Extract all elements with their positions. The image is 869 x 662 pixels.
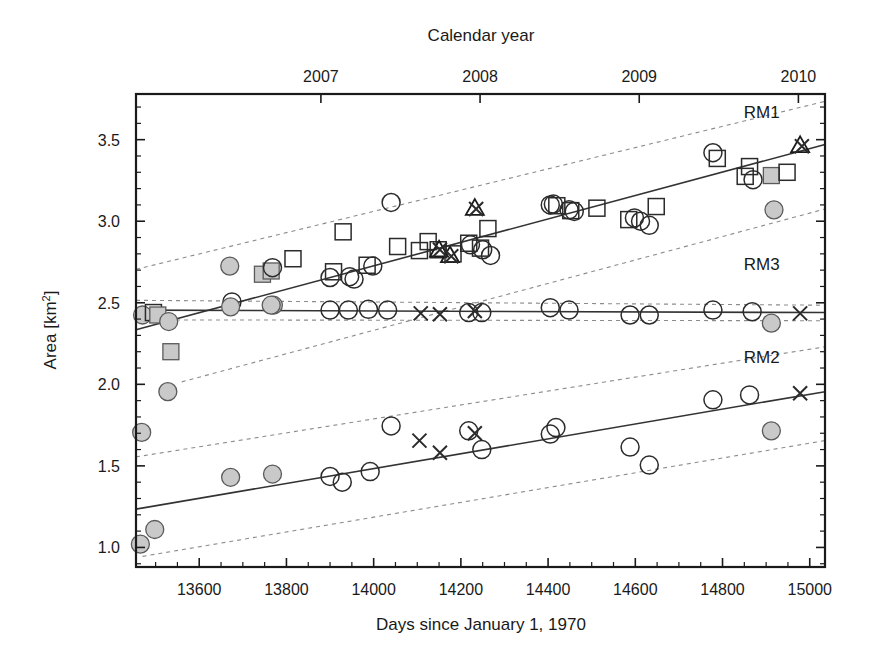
data-point-filled-circle [146, 520, 164, 538]
data-point-open-square [648, 199, 664, 215]
data-point-filled-circle [160, 313, 178, 331]
rm3-ci-lower-line [136, 320, 825, 321]
data-point-open-circle [460, 422, 478, 440]
data-point-filled-circle [222, 298, 240, 316]
series-label-rm3: RM3 [744, 255, 780, 274]
rm2-fit-line [136, 392, 825, 509]
rm1-ci-upper-line [136, 101, 825, 269]
data-point-filled-square [163, 344, 179, 360]
data-point-open-circle [359, 300, 377, 318]
data-point-filled-circle [263, 465, 281, 483]
data-point-filled-circle [262, 296, 280, 314]
x-tick-label: 14000 [351, 581, 396, 598]
x-tick-label: 14200 [439, 581, 484, 598]
data-point-open-circle [704, 391, 722, 409]
top-tick-label: 2007 [303, 68, 339, 85]
data-point-open-circle [379, 301, 397, 319]
area-vs-days-scatter-plot: Calendar year Days since January 1, 1970… [0, 0, 869, 662]
data-point-filled-circle [221, 257, 239, 275]
top-tick-label: 2009 [621, 68, 657, 85]
data-point-cross [433, 307, 447, 321]
data-point-open-square [779, 164, 795, 180]
data-point-open-circle [621, 438, 639, 456]
data-point-filled-circle [222, 468, 240, 486]
data-point-cross [793, 386, 807, 400]
data-point-open-circle [741, 386, 759, 404]
data-point-filled-circle [762, 314, 780, 332]
x-tick-label: 13800 [264, 581, 309, 598]
y-axis-title-text: Area [km [41, 301, 60, 369]
series-rm2 [131, 383, 807, 554]
data-point-open-square [335, 224, 351, 240]
y-tick-label: 2.0 [98, 376, 120, 393]
data-point-open-circle [382, 193, 400, 211]
data-point-open-square [285, 251, 301, 267]
series-label-rm2: RM2 [744, 348, 780, 367]
x-axis-title: Days since January 1, 1970 [376, 615, 586, 634]
data-point-cross [414, 306, 428, 320]
data-point-filled-circle [131, 535, 149, 553]
plot-frame [136, 94, 825, 567]
data-point-open-circle [640, 306, 658, 324]
x-tick-label: 14800 [700, 581, 745, 598]
axis-tick-labels: 1360013800140001420014400146001480015000… [98, 68, 832, 598]
data-point-filled-circle [159, 383, 177, 401]
top-tick-label: 2010 [781, 68, 817, 85]
data-point-cross [412, 434, 426, 448]
data-point-cross [793, 306, 807, 320]
x-tick-label: 14600 [613, 581, 658, 598]
data-points [131, 136, 809, 553]
x-tick-label: 14400 [526, 581, 571, 598]
x-tick-label: 13600 [177, 581, 222, 598]
data-point-open-circle [361, 463, 379, 481]
regression-fit-lines [136, 145, 825, 510]
x-tick-label: 15000 [787, 581, 832, 598]
series-label-rm1: RM1 [744, 103, 780, 122]
data-point-open-circle [640, 456, 658, 474]
y-tick-label: 2.5 [98, 295, 120, 312]
axis-ticks [136, 94, 825, 567]
data-point-filled-square [763, 168, 779, 184]
y-tick-label: 1.5 [98, 458, 120, 475]
data-point-open-square [709, 150, 725, 166]
y-tick-label: 3.5 [98, 132, 120, 149]
data-point-open-circle [333, 473, 351, 491]
top-axis-title: Calendar year [428, 26, 535, 45]
data-point-open-circle [382, 417, 400, 435]
data-point-open-circle [621, 306, 639, 324]
top-tick-label: 2008 [462, 68, 498, 85]
series-rm3 [222, 296, 808, 332]
y-tick-label: 1.0 [98, 539, 120, 556]
y-axis-title: Area [km2] [40, 291, 60, 370]
data-point-open-circle [704, 144, 722, 162]
data-point-open-circle [541, 299, 559, 317]
data-point-open-circle [704, 301, 722, 319]
figure-container: Calendar year Days since January 1, 1970… [0, 0, 869, 662]
series-rm1 [134, 136, 810, 359]
data-point-filled-circle [765, 201, 783, 219]
data-point-open-square [390, 239, 406, 255]
data-point-filled-circle [762, 422, 780, 440]
confidence-interval-lines [136, 101, 825, 556]
y-tick-label: 3.0 [98, 213, 120, 230]
